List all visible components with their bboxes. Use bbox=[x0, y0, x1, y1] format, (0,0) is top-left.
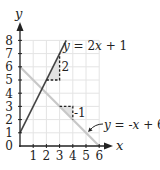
x-tick-label: 4 bbox=[69, 149, 77, 163]
rise-label-1: 2 bbox=[62, 60, 70, 74]
x-tick-label: 3 bbox=[56, 149, 64, 163]
x-axis-label: x bbox=[116, 138, 124, 153]
x-tick-label: 1 bbox=[29, 149, 37, 163]
x-tick-label: 2 bbox=[43, 149, 51, 163]
y-axis-arrow-icon bbox=[17, 22, 24, 31]
equation-label-neg-x-plus-6: y = -x + 6 bbox=[103, 118, 160, 132]
y-tick-label: 2 bbox=[5, 113, 13, 127]
coordinate-plane: 1 2 3 4 5 6 0 1 2 3 4 5 6 7 8 y x 2 -1 y… bbox=[0, 0, 160, 170]
y-tick-label: 8 bbox=[5, 34, 13, 48]
x-tick-label: 5 bbox=[82, 149, 90, 163]
y-tick-label: 3 bbox=[5, 100, 13, 114]
y-tick-label: 5 bbox=[5, 73, 13, 87]
x-axis-arrow-icon bbox=[104, 143, 113, 150]
y-tick-label: 7 bbox=[5, 47, 13, 61]
rise-label-2: -1 bbox=[74, 106, 86, 120]
y-tick-label: 0 bbox=[5, 139, 13, 153]
y-tick-label: 4 bbox=[5, 87, 13, 101]
pointer-arrow-icon bbox=[90, 124, 103, 130]
equation-label-2x-plus-1: y = 2x + 1 bbox=[62, 39, 127, 53]
y-axis-label: y bbox=[14, 6, 23, 21]
y-tick-label: 1 bbox=[5, 126, 13, 140]
y-tick-label: 6 bbox=[5, 60, 13, 74]
x-tick-label: 6 bbox=[95, 149, 103, 163]
